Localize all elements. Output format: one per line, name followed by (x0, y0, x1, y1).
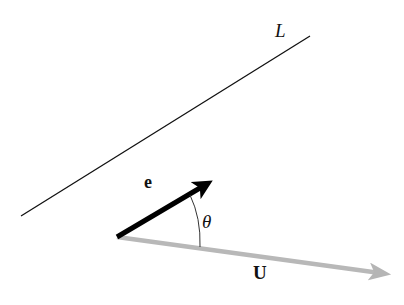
vector-U-label: U (253, 263, 267, 282)
vector-U-arrow (117, 237, 380, 273)
diagram-graphics (0, 0, 404, 305)
line-L (21, 36, 310, 216)
diagram-canvas: L e θ U (0, 0, 404, 305)
angle-theta-label: θ (202, 212, 211, 231)
angle-arc-theta (190, 195, 200, 247)
line-L-label: L (275, 21, 286, 40)
unit-vector-e-arrow (117, 185, 205, 237)
unit-vector-e-label: e (144, 173, 152, 191)
